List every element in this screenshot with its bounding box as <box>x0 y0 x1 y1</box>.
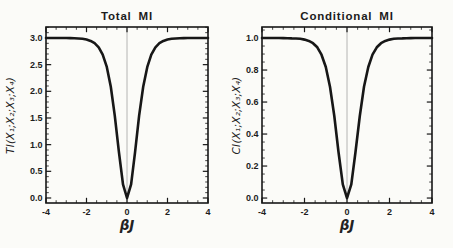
y-tick-label: 0.4 <box>246 129 259 139</box>
x-tick-label: 4 <box>429 207 434 217</box>
left-y-axis-label: TI(X₁;X₂;X₃;X₄) <box>3 28 18 204</box>
x-tick-label: 2 <box>387 207 392 217</box>
left-plot: -4-20240.00.51.01.52.02.53.0 <box>30 27 211 217</box>
x-tick-label: 0 <box>124 207 129 217</box>
y-tick-label: 0.6 <box>246 97 259 107</box>
y-tick-label: 3.0 <box>30 33 43 43</box>
y-tick-label: 0.0 <box>246 193 259 203</box>
right-plot-title: Conditional MI <box>262 9 432 24</box>
y-tick-label: 1.0 <box>246 33 259 43</box>
x-tick-label: -2 <box>82 207 90 217</box>
x-tick-label: 4 <box>205 207 210 217</box>
x-tick-label: -2 <box>300 207 308 217</box>
x-tick-label: 0 <box>344 207 349 217</box>
y-tick-label: 2.5 <box>30 60 43 70</box>
y-tick-label: 0.8 <box>246 65 259 75</box>
left-plot-title: Total MI <box>46 9 208 24</box>
y-tick-label: 2.0 <box>30 86 43 96</box>
x-tick-label: 2 <box>165 207 170 217</box>
x-tick-label: -4 <box>258 207 266 217</box>
y-tick-label: 1.0 <box>30 140 43 150</box>
figure: -4-20240.00.51.01.52.02.53.0 -4-20240.00… <box>0 0 453 248</box>
y-tick-label: 1.5 <box>30 113 43 123</box>
right-plot: -4-20240.00.20.40.60.81.0 <box>246 27 435 217</box>
y-tick-label: 0.2 <box>246 161 259 171</box>
x-tick-label: -4 <box>42 207 50 217</box>
plots-canvas: -4-20240.00.51.01.52.02.53.0 -4-20240.00… <box>0 0 453 248</box>
right-y-axis-label: CI(X₁;X₂;X₃;X₄) <box>229 28 244 204</box>
y-tick-label: 0.5 <box>30 166 43 176</box>
y-tick-label: 0.0 <box>30 193 43 203</box>
right-x-axis-label: βJ <box>262 216 432 234</box>
left-x-axis-label: βJ <box>46 216 208 234</box>
